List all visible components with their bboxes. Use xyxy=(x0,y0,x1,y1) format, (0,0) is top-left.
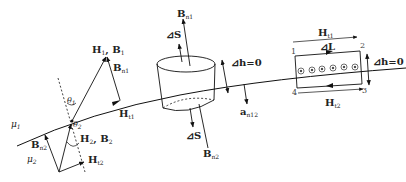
loop-dl-label: ⊿L xyxy=(320,41,335,52)
corner-1-label: 1 xyxy=(291,47,296,56)
loop-ht2-label: Ht2 xyxy=(325,97,341,109)
bn2-arrow xyxy=(45,135,59,172)
loop-rectangle xyxy=(295,51,362,88)
theta2-label: θ2 xyxy=(73,120,82,130)
mu1-label: μ1 xyxy=(11,119,21,130)
loop-ht2-arrow xyxy=(298,89,363,93)
cylinder-bottom-front xyxy=(163,100,214,111)
corner-3-label: 3 xyxy=(362,86,367,95)
ht2-arrow xyxy=(59,162,84,172)
ht2-label: Ht2 xyxy=(88,154,104,166)
cylinder-top xyxy=(157,56,215,72)
h1-b1-label: H1, B1 xyxy=(92,44,125,56)
h2-b2-label: H2, B2 xyxy=(80,133,113,145)
loop-ht1-label: Ht1 xyxy=(318,27,334,39)
cylinder-left-side xyxy=(157,64,163,108)
interface-curve xyxy=(17,68,406,146)
theta1-label: θ1 xyxy=(67,96,76,106)
ht1-label: Ht1 xyxy=(119,108,135,120)
mu2-label: μ2 xyxy=(27,154,37,165)
pillbox-bn1-label: Bn1 xyxy=(177,8,193,20)
h1-b1-arrow xyxy=(72,57,106,121)
left-vector-construction xyxy=(45,57,121,172)
cylinder-right-side xyxy=(214,64,215,100)
pillbox-bn2-label: Bn2 xyxy=(203,148,219,160)
corner-2-label: 2 xyxy=(360,41,365,50)
bn2-label: Bn2 xyxy=(31,139,47,151)
pillbox-bn2-line xyxy=(199,104,208,148)
ds-bottom-arrow xyxy=(190,108,193,127)
bn1-label: Bn1 xyxy=(113,62,129,74)
ds-top-label: ⊿S xyxy=(166,29,181,40)
pillbox-dh-label: ⊿h=0 xyxy=(231,57,262,68)
ht1-arrowhead xyxy=(112,100,121,106)
boundary-condition-diagram: μ1 μ2 H1, B1 Bn1 Ht1 θ1 θ2 H2, B2 Bn2 Ht… xyxy=(0,0,406,182)
loop-dh-label: ⊿h=0 xyxy=(373,56,404,67)
an12-arrow xyxy=(244,84,247,104)
loop-bottom-arrowhead xyxy=(326,83,333,88)
an12-label: an12 xyxy=(240,106,258,118)
ds-bottom-label: ⊿S xyxy=(186,130,201,141)
h2-b2-arrow xyxy=(59,124,71,172)
cylinder-bottom-back xyxy=(163,98,214,108)
corner-4-label: 4 xyxy=(292,88,297,97)
loop-dh-arrow xyxy=(367,54,369,85)
